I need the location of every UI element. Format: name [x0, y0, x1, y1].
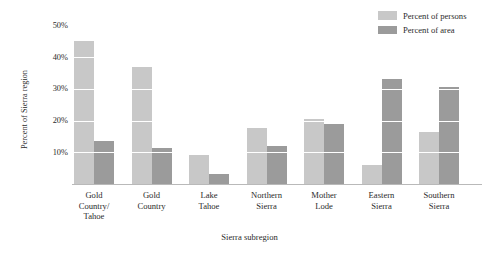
- y-axis-title: Percent of Sierra region: [20, 45, 29, 175]
- y-tick-label: 10%: [36, 148, 68, 157]
- bar: [247, 128, 267, 184]
- x-tick-label: SouthernSierra: [401, 190, 477, 211]
- bar: [209, 174, 229, 184]
- x-tick-line: Tahoe: [56, 211, 132, 222]
- bar-chart-figure: Percent of persons Percent of area Perce…: [0, 0, 499, 255]
- gridline: [72, 152, 482, 153]
- bar-group: [304, 19, 344, 184]
- bar: [419, 132, 439, 184]
- bar: [382, 79, 402, 184]
- plot-area: [72, 19, 482, 185]
- bar: [94, 141, 114, 184]
- bar: [439, 87, 459, 184]
- x-axis-ticks: GoldCountry/TahoeGoldCountryLakeTahoeNor…: [72, 190, 482, 232]
- bar: [324, 124, 344, 184]
- bar: [189, 155, 209, 184]
- y-tick-label: 30%: [36, 84, 68, 93]
- bar-group: [419, 19, 459, 184]
- gridline: [72, 89, 482, 90]
- gridline: [72, 57, 482, 58]
- bar: [362, 165, 382, 184]
- bar-group: [189, 19, 229, 184]
- bar-group: [74, 19, 114, 184]
- bar: [74, 41, 94, 184]
- x-tick-line: Southern: [401, 190, 477, 201]
- gridline: [72, 121, 482, 122]
- bar: [132, 67, 152, 184]
- gridline: [72, 25, 482, 26]
- y-tick-label: 40%: [36, 53, 68, 62]
- y-tick-label: 20%: [36, 116, 68, 125]
- bar-group: [247, 19, 287, 184]
- y-tick-label: 50%: [36, 21, 68, 30]
- bar-group: [362, 19, 402, 184]
- bar-group: [132, 19, 172, 184]
- x-axis-title: Sierra subregion: [0, 232, 499, 242]
- x-tick-line: Sierra: [401, 201, 477, 212]
- x-axis-baseline: [72, 184, 482, 185]
